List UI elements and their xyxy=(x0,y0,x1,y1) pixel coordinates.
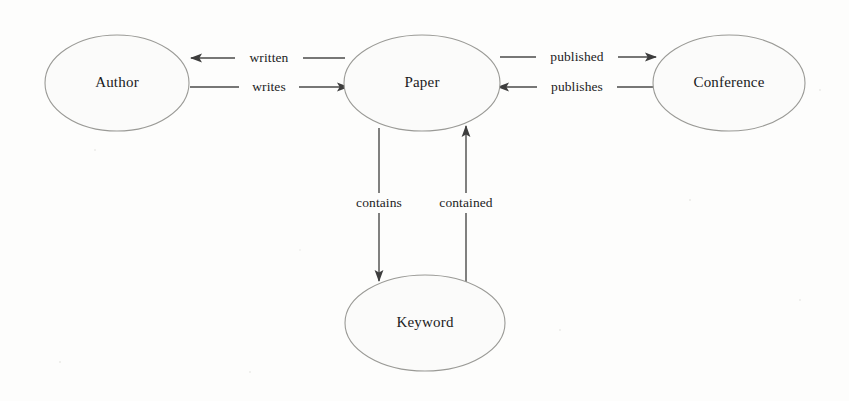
diagram-canvas: written writes published publishes conta… xyxy=(0,0,849,401)
node-keyword[interactable]: Keyword xyxy=(345,275,505,371)
edge-writes-label: writes xyxy=(252,79,286,94)
node-conference[interactable]: Conference xyxy=(653,35,805,131)
edge-written[interactable]: written xyxy=(191,48,345,68)
node-keyword-label: Keyword xyxy=(396,314,454,330)
node-paper-label: Paper xyxy=(404,74,439,90)
edge-publishes-label: publishes xyxy=(551,79,603,94)
node-author-label: Author xyxy=(95,74,139,90)
edge-contained-label: contained xyxy=(439,195,493,210)
node-paper[interactable]: Paper xyxy=(344,35,500,131)
edge-contains[interactable]: contains xyxy=(344,128,416,281)
edge-written-label: written xyxy=(250,50,289,65)
edge-writes[interactable]: writes xyxy=(190,77,348,97)
edge-contains-label: contains xyxy=(356,195,402,210)
edge-publishes[interactable]: publishes xyxy=(498,77,654,97)
node-conference-label: Conference xyxy=(693,74,764,90)
edge-published-label: published xyxy=(550,49,604,64)
node-author[interactable]: Author xyxy=(45,35,189,131)
edge-published[interactable]: published xyxy=(500,47,656,67)
er-diagram: written writes published publishes conta… xyxy=(0,0,849,401)
